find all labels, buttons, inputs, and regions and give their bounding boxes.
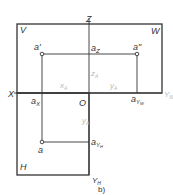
origin-label: O bbox=[79, 98, 86, 108]
dim-za: zA bbox=[90, 69, 99, 79]
label-az: aZ bbox=[91, 43, 100, 54]
figure-caption: b) bbox=[98, 185, 105, 194]
point-a-top bbox=[40, 140, 44, 144]
label-ayw: aYW bbox=[131, 94, 145, 106]
projection-diagram: V W H Z X YW YH O a' a" a aZ aX aYW aYH … bbox=[0, 0, 173, 195]
axis-x-label: X bbox=[7, 89, 15, 99]
plane-v-label: V bbox=[20, 25, 27, 35]
point-a-side bbox=[135, 52, 139, 56]
dim-xa: xA bbox=[59, 81, 68, 91]
plane-w-label: W bbox=[151, 26, 161, 36]
label-a-top: a bbox=[38, 145, 43, 155]
label-ax: aX bbox=[31, 96, 41, 107]
axis-yw-label: YW bbox=[164, 90, 173, 100]
label-a-front: a' bbox=[34, 42, 41, 52]
dim-ya-right: yA bbox=[109, 81, 118, 91]
plane-h-label: H bbox=[20, 162, 27, 172]
label-a-side: a" bbox=[133, 42, 142, 52]
v-w-frame bbox=[17, 24, 162, 93]
axis-z-label: Z bbox=[85, 14, 92, 24]
point-a-front bbox=[40, 52, 44, 56]
label-ayh: aYH bbox=[91, 137, 103, 149]
